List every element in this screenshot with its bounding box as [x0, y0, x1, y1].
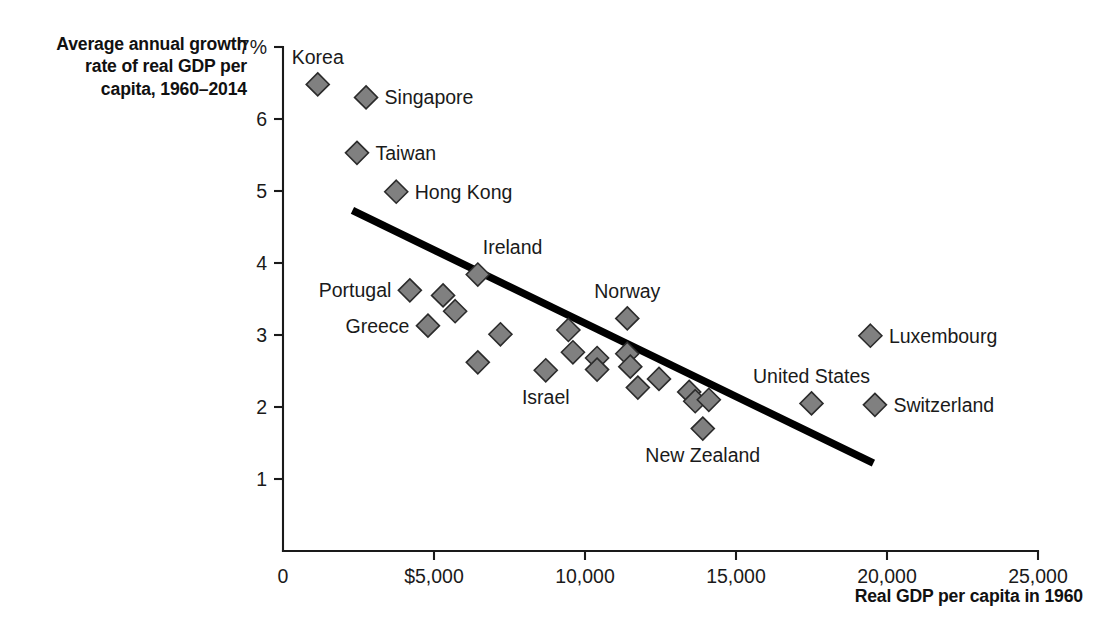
x-axis-tick-label: 20,000 — [857, 565, 917, 587]
data-point — [626, 376, 649, 399]
scatter-plot: 1234567% 0$5,00010,00015,00020,00025,000… — [0, 0, 1099, 638]
data-point-label-ireland: Ireland — [483, 236, 543, 258]
data-point-label-portugal: Portugal — [319, 279, 392, 301]
data-point-portugal — [398, 279, 421, 302]
data-point-label-taiwan: Taiwan — [375, 142, 436, 164]
x-axis-tick-label: 10,000 — [555, 565, 615, 587]
data-point — [489, 323, 512, 346]
data-point-luxembourg — [859, 324, 882, 347]
data-point — [466, 351, 489, 374]
y-axis-tick-label: 1 — [256, 468, 267, 490]
data-point-label-norway: Norway — [594, 280, 660, 302]
data-point-label-singapore: Singapore — [385, 86, 474, 108]
data-point-taiwan — [345, 141, 368, 164]
x-axis-tick-label: 25,000 — [1008, 565, 1068, 587]
data-point-singapore — [355, 86, 378, 109]
trend-line-segment — [352, 210, 873, 463]
y-axis-tick-label: 7% — [239, 36, 267, 58]
trend-line — [352, 210, 873, 463]
data-point-switzerland — [863, 393, 886, 416]
data-point-korea — [306, 73, 329, 96]
x-axis-tick-label: $5,000 — [404, 565, 464, 587]
x-axis-tick-label: 15,000 — [706, 565, 766, 587]
data-point-label-korea: Korea — [292, 46, 344, 68]
data-point-hong-kong — [385, 180, 408, 203]
data-point-label-united-states: United States — [753, 365, 870, 387]
data-point-new-zealand — [691, 417, 714, 440]
y-axis-tick-label: 5 — [256, 180, 267, 202]
data-point-label-new-zealand: New Zealand — [645, 444, 760, 466]
y-axis-tick-label: 6 — [256, 108, 267, 130]
data-point-label-greece: Greece — [346, 315, 410, 337]
chart-container: Average annual growth rate of real GDP p… — [0, 0, 1099, 638]
data-point-label-switzerland: Switzerland — [893, 394, 994, 416]
data-point-labels: KoreaSingaporeTaiwanHong KongIrelandPort… — [292, 46, 998, 466]
data-point-norway — [616, 307, 639, 330]
x-axis: 0$5,00010,00015,00020,00025,000 — [278, 551, 1068, 587]
data-point — [647, 367, 670, 390]
data-point-label-luxembourg: Luxembourg — [889, 325, 997, 347]
data-point-united-states — [800, 392, 823, 415]
x-axis-tick-label: 0 — [278, 565, 289, 587]
data-point-greece — [416, 314, 439, 337]
y-axis: 1234567% — [239, 36, 283, 551]
y-axis-tick-label: 4 — [256, 252, 267, 274]
y-axis-tick-label: 3 — [256, 324, 267, 346]
data-point-label-israel: Israel — [522, 386, 570, 408]
data-point — [561, 341, 584, 364]
data-point-label-hong-kong: Hong Kong — [415, 181, 513, 203]
data-point-israel — [534, 359, 557, 382]
y-axis-tick-label: 2 — [256, 396, 267, 418]
